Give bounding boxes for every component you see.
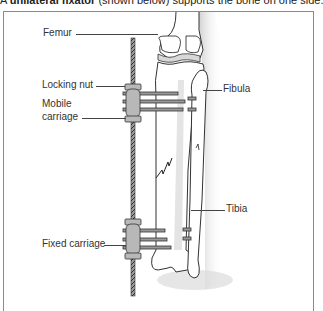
leader-fibula [203,90,222,91]
leader-locking-nut [96,86,125,87]
label-fibula: Fibula [223,83,250,95]
label-tibia: Tibia [226,203,247,215]
leader-femur [76,34,158,35]
label-fixed-carriage: Fixed carriage [42,238,105,250]
femur-bone [158,12,203,62]
leader-mobile-carriage [82,118,126,119]
fixed-carriage [125,219,141,259]
label-mobile-carriage-1: Mobile [42,98,71,110]
label-mobile-carriage-2: carriage [42,111,78,123]
leader-fixed-carriage [104,245,126,246]
mobile-carriage [125,84,141,122]
label-locking-nut: Locking nut [42,79,93,91]
leader-tibia [191,210,225,211]
label-femur: Femur [43,27,72,39]
